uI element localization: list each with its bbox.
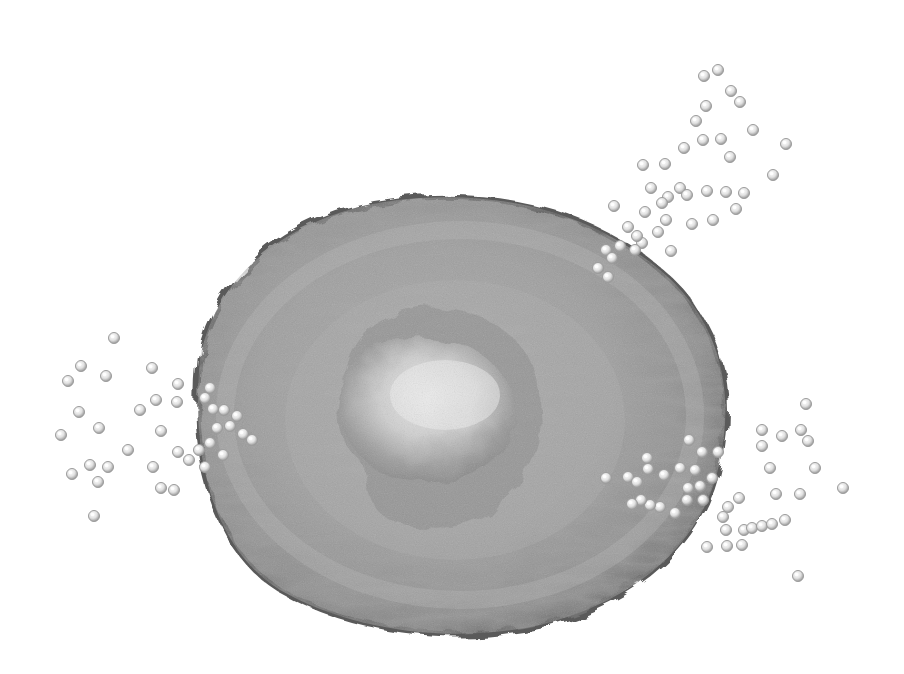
particle xyxy=(757,521,768,532)
particle xyxy=(123,445,134,456)
particle xyxy=(781,139,792,150)
particle xyxy=(101,371,112,382)
particle xyxy=(747,523,758,534)
particle xyxy=(687,219,698,230)
particle xyxy=(748,125,759,136)
particle xyxy=(731,204,742,215)
particle xyxy=(593,263,604,274)
particle xyxy=(713,447,724,458)
cell-illustration xyxy=(0,0,904,674)
particle xyxy=(702,542,713,553)
particle xyxy=(642,453,653,464)
particle xyxy=(74,407,85,418)
particle xyxy=(607,253,618,264)
particle xyxy=(135,405,146,416)
particle xyxy=(67,469,78,480)
particle xyxy=(156,483,167,494)
particle xyxy=(218,450,229,461)
particle xyxy=(184,455,195,466)
particle xyxy=(695,481,706,492)
particle xyxy=(660,159,671,170)
particle xyxy=(646,183,657,194)
particle xyxy=(713,65,724,76)
particle xyxy=(94,423,105,434)
particle xyxy=(200,462,211,473)
particle xyxy=(151,395,162,406)
particle xyxy=(609,201,620,212)
particle xyxy=(757,441,768,452)
upper-right-cluster xyxy=(593,65,792,283)
particle xyxy=(109,333,120,344)
particle xyxy=(708,215,719,226)
particle xyxy=(638,160,649,171)
particle xyxy=(627,499,638,510)
particle xyxy=(723,502,734,513)
particle xyxy=(698,135,709,146)
particle xyxy=(601,473,612,484)
particle xyxy=(653,227,664,238)
particle xyxy=(659,470,670,481)
particle xyxy=(682,190,693,201)
particle xyxy=(796,425,807,436)
particle xyxy=(765,463,776,474)
particle xyxy=(103,462,114,473)
particle xyxy=(801,399,812,410)
particle xyxy=(810,463,821,474)
particle xyxy=(795,489,806,500)
particle xyxy=(173,379,184,390)
particle xyxy=(169,485,180,496)
particle xyxy=(777,431,788,442)
particle xyxy=(701,101,712,112)
particle xyxy=(630,245,641,256)
particle xyxy=(194,445,205,456)
particle xyxy=(682,495,693,506)
particle xyxy=(702,186,713,197)
particle xyxy=(735,97,746,108)
particle xyxy=(205,438,216,449)
particle xyxy=(721,525,732,536)
particle xyxy=(718,512,729,523)
particle xyxy=(734,493,745,504)
particle xyxy=(698,495,709,506)
particle xyxy=(771,489,782,500)
particle xyxy=(603,272,614,283)
particle xyxy=(655,502,666,513)
particle xyxy=(684,435,695,446)
particle xyxy=(89,511,100,522)
particle xyxy=(632,477,643,488)
particle xyxy=(640,207,651,218)
particle xyxy=(690,465,701,476)
particle xyxy=(722,541,733,552)
particle xyxy=(156,426,167,437)
particle xyxy=(76,361,87,372)
particle xyxy=(666,246,677,257)
particle xyxy=(757,425,768,436)
particle xyxy=(173,447,184,458)
particle xyxy=(683,483,694,494)
particle xyxy=(780,515,791,526)
particle xyxy=(803,436,814,447)
particle xyxy=(679,143,690,154)
particle xyxy=(172,397,183,408)
particle xyxy=(726,86,737,97)
particle xyxy=(632,231,643,242)
particle xyxy=(670,508,681,519)
particle xyxy=(768,170,779,181)
particle xyxy=(56,430,67,441)
particle xyxy=(643,464,654,475)
particle xyxy=(232,411,243,422)
particle xyxy=(63,376,74,387)
particle xyxy=(225,421,236,432)
particle xyxy=(148,462,159,473)
particle xyxy=(208,404,219,415)
particle xyxy=(691,116,702,127)
particle xyxy=(739,188,750,199)
particle xyxy=(615,241,626,252)
particle xyxy=(623,222,634,233)
particle xyxy=(147,363,158,374)
particle xyxy=(93,477,104,488)
particle xyxy=(200,393,211,404)
particle xyxy=(707,473,718,484)
particle xyxy=(661,215,672,226)
particle xyxy=(716,134,727,145)
